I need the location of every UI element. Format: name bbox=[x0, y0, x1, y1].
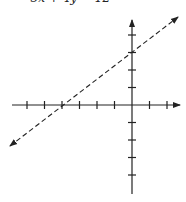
dashed-line-graph bbox=[10, 17, 178, 146]
coordinate-graph bbox=[0, 0, 186, 202]
